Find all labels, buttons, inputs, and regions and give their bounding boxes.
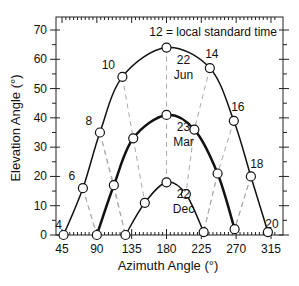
hour-label: 16 [231, 100, 245, 114]
data-point-marker [162, 178, 171, 187]
y-tick-label: 60 [34, 52, 48, 66]
sun-path-curves [64, 47, 268, 235]
hour-label: 14 [205, 47, 219, 61]
hour-line [83, 188, 97, 235]
series-month-label: Mar [173, 135, 194, 149]
x-tick-label: 90 [90, 242, 104, 256]
hour-lines [83, 48, 251, 235]
y-tick-label: 0 [40, 228, 47, 242]
x-tick-label: 135 [122, 242, 142, 256]
y-tick-label: 50 [34, 82, 48, 96]
hour-line [218, 121, 234, 174]
chart-annotation: 12 = local standard time [149, 25, 277, 39]
hour-label: 10 [102, 58, 116, 72]
data-point-marker [213, 169, 222, 178]
data-point-marker [118, 72, 127, 81]
data-point-marker [95, 128, 104, 137]
hour-line [204, 174, 218, 233]
y-tick-label: 20 [34, 169, 48, 183]
data-point-marker [199, 228, 208, 237]
x-tick-label: 270 [226, 242, 246, 256]
series-day-label: 22 [177, 187, 191, 201]
series-month-label: Jun [174, 68, 193, 82]
sun-path-chart: 0102030405060704590135180225270315 46810… [0, 0, 299, 286]
hour-line [235, 176, 251, 229]
sun-path-jun [64, 47, 268, 235]
series-day-label: 23 [177, 120, 191, 134]
data-point-marker [162, 43, 171, 52]
data-point-marker [121, 231, 130, 240]
data-point-marker [229, 116, 238, 125]
y-tick-label: 10 [34, 199, 48, 213]
data-point-marker [205, 64, 214, 73]
x-tick-label: 225 [191, 242, 211, 256]
hour-line [133, 138, 145, 202]
hour-line [83, 188, 97, 235]
data-point-marker [190, 125, 199, 134]
y-axis-label: Elevation Angle (°) [8, 74, 23, 181]
y-tick-label: 70 [34, 23, 48, 37]
hour-label: 20 [265, 217, 279, 231]
y-tick-label: 30 [34, 140, 48, 154]
data-point-marker [92, 231, 101, 240]
data-point-marker [162, 110, 171, 119]
hour-line [114, 185, 126, 235]
data-point-marker [230, 225, 239, 234]
series-day-label: 22 [177, 53, 191, 67]
data-point-marker [129, 134, 138, 143]
chart-labels: 468101416182022Jun23Mar22Dec [55, 47, 279, 232]
data-point-marker [246, 172, 255, 181]
series-month-label: Dec [173, 202, 194, 216]
hour-line [194, 68, 209, 130]
data-point-marker [109, 181, 118, 190]
axis-ticks: 0102030405060704590135180225270315 [34, 17, 289, 256]
hour-label: 18 [250, 157, 264, 171]
x-tick-label: 315 [261, 242, 281, 256]
data-point-marker [140, 198, 149, 207]
hour-label: 4 [55, 218, 62, 232]
x-tick-label: 45 [55, 242, 69, 256]
hour-line [122, 77, 133, 139]
y-tick-label: 40 [34, 111, 48, 125]
hour-label: 8 [86, 114, 93, 128]
hour-label: 6 [69, 169, 76, 183]
x-axis-label: Azimuth Angle (°) [118, 258, 219, 273]
x-tick-label: 180 [156, 242, 176, 256]
data-point-marker [78, 184, 87, 193]
